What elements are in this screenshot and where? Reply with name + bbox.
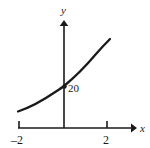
y-axis-label: y bbox=[60, 4, 66, 16]
x-tick-label-2: 2 bbox=[103, 133, 109, 147]
x-tick-label-minus-2: –2 bbox=[10, 133, 23, 147]
plot-svg: 20 –2 2 x y bbox=[0, 0, 150, 148]
y-intercept-marker bbox=[62, 84, 66, 88]
x-axis-arrow-icon bbox=[131, 124, 137, 133]
y-intercept-label: 20 bbox=[68, 82, 80, 94]
x-axis-label: x bbox=[139, 122, 145, 134]
y-axis-arrow-icon bbox=[60, 20, 69, 26]
figure-container: 20 –2 2 x y bbox=[0, 0, 150, 148]
